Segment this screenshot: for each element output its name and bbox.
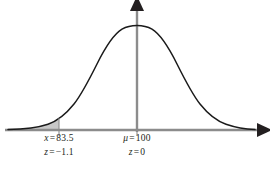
label-mean-value: μ=100 z=0 bbox=[90, 132, 184, 159]
label-mu-line1: μ=100 bbox=[90, 132, 184, 146]
label-z-left-relation: = bbox=[48, 147, 56, 157]
label-mu-relation: = bbox=[128, 133, 136, 143]
label-z-left-number: −1.1 bbox=[56, 147, 74, 157]
label-z-center-number: 0 bbox=[140, 147, 145, 157]
normal-curve bbox=[8, 26, 255, 130]
label-x-number: 83.5 bbox=[56, 133, 73, 143]
label-mu-number: 100 bbox=[136, 133, 151, 143]
normal-distribution-figure: x=83.5 z=−1.1 μ=100 z=0 bbox=[0, 0, 270, 170]
label-z-center-line2: z=0 bbox=[90, 146, 184, 160]
